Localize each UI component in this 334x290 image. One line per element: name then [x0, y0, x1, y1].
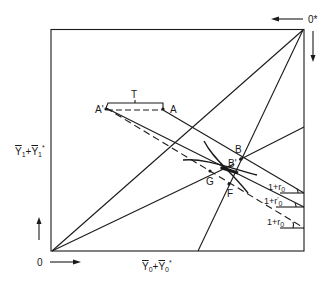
origin-star-label: 0*	[308, 14, 318, 25]
y-label-sub1: 1	[38, 151, 42, 158]
arrowhead-up-icon	[37, 217, 42, 224]
slope2-one: 1+	[264, 196, 274, 206]
slope1-sub: 0	[281, 186, 285, 193]
y-axis-label: Y1+Y1*	[15, 144, 45, 158]
point-B	[239, 157, 243, 161]
arrowhead-left-icon	[271, 17, 279, 22]
slope2-sub: 0	[279, 200, 283, 207]
x-axis-label: Y0+Y0*	[142, 259, 172, 273]
label-F: F	[227, 188, 233, 199]
slope1-one: 1+	[268, 182, 278, 192]
slope-arc-3	[293, 222, 294, 228]
slope-arc-2	[295, 203, 296, 207]
label-A-prime: A'	[95, 104, 104, 115]
arrowhead-down-icon	[311, 55, 316, 62]
arrowhead-right-icon	[73, 260, 81, 265]
slope-label-2: 1+r'0	[264, 196, 283, 207]
T-bracket	[106, 103, 163, 108]
budget-line-dashed	[106, 108, 304, 228]
x-label-sub1: 0	[165, 266, 169, 273]
ray-O-to-Ostar	[52, 30, 303, 251]
label-T: T	[131, 89, 137, 100]
slope3-one: 1+	[267, 217, 277, 227]
slope3-sub: 0	[280, 221, 284, 228]
budget-line-Aprime	[106, 108, 304, 207]
point-G	[208, 169, 211, 172]
edgeworth-box-diagram: 0 0* Y1+Y1* Y0+Y0* A' A T B B' G F 1+r0 …	[0, 0, 334, 290]
point-A-prime	[104, 107, 107, 110]
slope-label-1: 1+r0	[268, 182, 285, 193]
x-label-star: *	[169, 259, 172, 266]
point-A	[161, 107, 164, 110]
slope-label-3: 1+r0	[267, 217, 284, 228]
label-B: B	[235, 144, 242, 155]
label-G: G	[206, 176, 214, 187]
y-label-star: *	[42, 144, 45, 151]
point-F	[227, 182, 230, 185]
budget-line-A	[163, 110, 304, 193]
label-A: A	[170, 104, 177, 115]
origin-star-text: 0*	[308, 14, 318, 25]
origin-label: 0	[37, 257, 43, 268]
point-B-prime	[220, 166, 224, 170]
label-B-prime: B'	[228, 158, 237, 169]
slope-arc-1	[297, 189, 298, 193]
